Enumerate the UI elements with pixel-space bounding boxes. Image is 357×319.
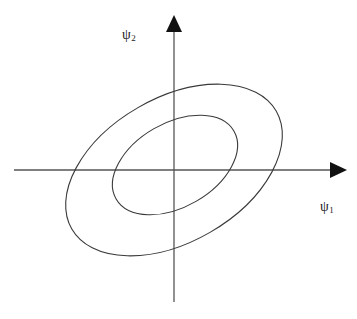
inner-contour-ellipse	[95, 95, 255, 236]
psi1-symbol: ψ	[320, 199, 329, 214]
psi2-symbol: ψ	[122, 27, 131, 42]
psi1-subscript: 1	[329, 205, 334, 215]
psi1-axis-arrowhead	[330, 162, 347, 178]
contour-plot-svg	[0, 0, 357, 319]
psi2-axis-arrowhead	[166, 15, 182, 32]
psi2-subscript: 2	[131, 33, 136, 43]
psi1-axis-label: ψ1	[320, 200, 334, 214]
psi2-axis-label: ψ2	[122, 28, 136, 42]
figure-canvas: ψ2 ψ1	[0, 0, 357, 319]
